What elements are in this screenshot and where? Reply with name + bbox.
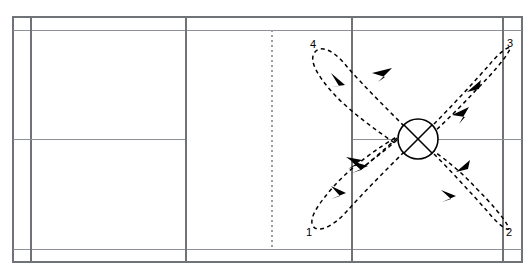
arrowhead-return-1 (351, 161, 368, 173)
corner-label-3: 3 (507, 38, 513, 49)
corner-label-4: 4 (310, 39, 316, 50)
court-lines (13, 17, 522, 262)
path-base-to-corner-4 (313, 49, 404, 144)
path-base-to-corner-3 (426, 47, 510, 140)
path-base-to-corner-1 (312, 136, 404, 229)
base-position-marker (398, 119, 438, 159)
arrowhead-outbound-2 (441, 190, 456, 202)
arrowhead-outbound-3 (452, 107, 469, 124)
court-canvas (0, 0, 532, 277)
corner-label-2: 2 (506, 227, 512, 238)
arrowhead-outbound-4 (330, 73, 345, 87)
arrowhead-return-3 (467, 80, 481, 98)
arrowhead-outbound-1 (331, 186, 346, 199)
court-diagram: 1 2 3 4 (0, 0, 532, 277)
corner-label-1: 1 (306, 227, 312, 238)
arrowhead-return-4 (372, 68, 392, 82)
